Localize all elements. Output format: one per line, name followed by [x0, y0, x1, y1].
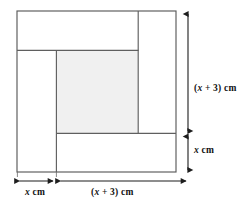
- label-text-bottom-x-suffix: cm: [30, 187, 45, 197]
- label-text-right-x-suffix: cm: [199, 145, 214, 155]
- dimension-label-right-height: (x + 3) cm: [194, 84, 237, 94]
- dimension-label-bottom-width: (x + 3) cm: [91, 188, 134, 198]
- label-text-right-height-suffix: + 3) cm: [202, 83, 236, 93]
- label-text-bottom-width-suffix: + 3) cm: [99, 187, 133, 197]
- geometry-diagram-svg: [0, 0, 248, 205]
- dimension-label-bottom-x: x cm: [25, 188, 45, 198]
- shaded-inner-square: [56, 50, 138, 133]
- dimension-label-right-x: x cm: [194, 146, 214, 156]
- geometry-figure-canvas: (x + 3) cm x cm x cm (x + 3) cm: [0, 0, 248, 205]
